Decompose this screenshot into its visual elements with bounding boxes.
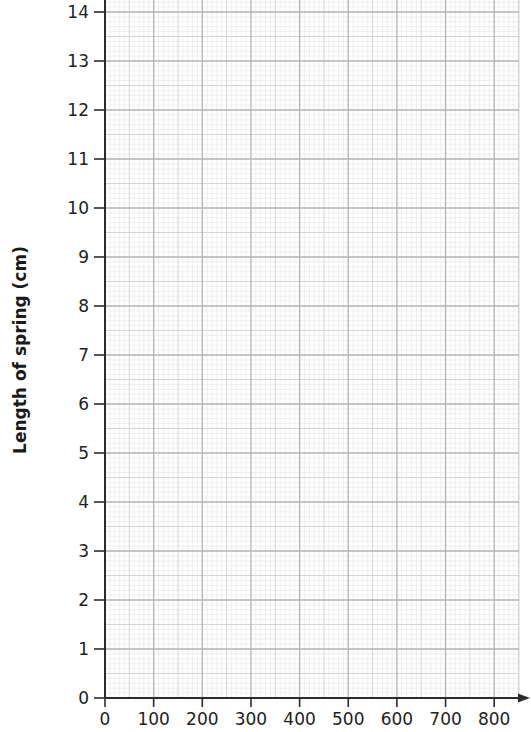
y-tick-label: 3 bbox=[78, 541, 89, 561]
y-tick-label: 2 bbox=[78, 590, 89, 610]
y-tick-label: 7 bbox=[78, 345, 89, 365]
y-axis-title: Length of spring (cm) bbox=[10, 246, 30, 454]
x-tick-label: 700 bbox=[429, 709, 461, 729]
x-tick-label: 200 bbox=[186, 709, 218, 729]
x-tick-label: 600 bbox=[381, 709, 413, 729]
y-tick-label: 5 bbox=[78, 443, 89, 463]
x-tick-label: 100 bbox=[137, 709, 169, 729]
y-tick-label: 12 bbox=[67, 100, 89, 120]
y-tick-label: 4 bbox=[78, 492, 89, 512]
y-tick-label: 6 bbox=[78, 394, 89, 414]
y-tick-label: 14 bbox=[67, 2, 89, 22]
y-tick-label: 10 bbox=[67, 198, 89, 218]
graph-paper-chart: 01234567891011121314 0100200300400500600… bbox=[0, 0, 531, 732]
y-tick-label: 1 bbox=[78, 639, 89, 659]
y-tick-label: 11 bbox=[67, 149, 89, 169]
x-tick-label: 400 bbox=[283, 709, 315, 729]
x-tick-label: 0 bbox=[100, 709, 111, 729]
y-tick-label: 8 bbox=[78, 296, 89, 316]
y-tick-label: 0 bbox=[78, 688, 89, 708]
x-tick-label: 300 bbox=[235, 709, 267, 729]
y-tick-label: 9 bbox=[78, 247, 89, 267]
x-tick-label: 500 bbox=[332, 709, 364, 729]
y-tick-label: 13 bbox=[67, 51, 89, 71]
x-tick-label: 800 bbox=[478, 709, 510, 729]
